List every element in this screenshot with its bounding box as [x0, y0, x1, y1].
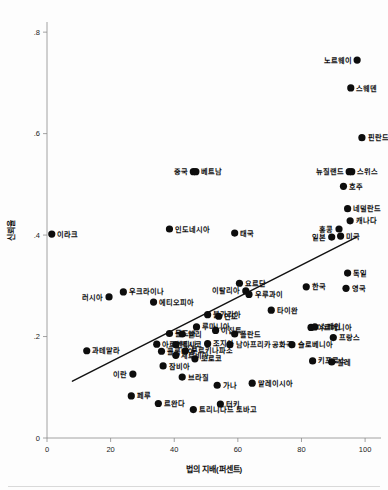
data-point-label: 칠레	[337, 358, 351, 367]
data-point-marker[interactable]	[245, 291, 252, 298]
data-point-marker[interactable]	[192, 168, 199, 175]
y-tick-label: .2	[34, 332, 40, 341]
data-point-label: 독일	[353, 269, 367, 278]
data-point-label: 인도	[224, 312, 238, 321]
x-tick-label: 60	[234, 445, 242, 454]
x-tick-label: 100	[359, 445, 372, 454]
data-point-label: 일본	[312, 233, 326, 242]
y-tick-label: .6	[34, 129, 40, 138]
data-point-label: 이탈리아	[212, 286, 240, 295]
data-point-marker[interactable]	[212, 327, 219, 334]
data-point-label: 스웨덴	[356, 84, 377, 93]
data-point-marker[interactable]	[311, 323, 318, 330]
data-point-label: 스위스	[357, 167, 378, 176]
data-point-label: 우크라이나	[129, 287, 164, 296]
data-point-label: 과테말라	[92, 346, 120, 355]
data-point-marker[interactable]	[309, 357, 316, 364]
data-point-label: 네덜란드	[353, 204, 381, 213]
data-point-label: 베트남	[201, 167, 222, 176]
data-point-label: 트리니다드 토바고	[199, 405, 257, 414]
data-point-label: 말리	[188, 330, 202, 339]
data-point-marker[interactable]	[129, 370, 136, 377]
data-point-marker[interactable]	[328, 358, 335, 365]
data-point-marker[interactable]	[215, 313, 222, 320]
data-point-marker[interactable]	[166, 225, 173, 232]
x-tick-label: 20	[106, 445, 114, 454]
data-point-marker[interactable]	[128, 392, 135, 399]
data-point-marker[interactable]	[358, 134, 365, 141]
data-point-label: 타이완	[277, 306, 298, 315]
data-point-label: 가나	[223, 381, 237, 390]
x-axis-title: 법의 지배(퍼센트)	[186, 464, 243, 474]
data-point-marker[interactable]	[344, 205, 351, 212]
data-point-marker[interactable]	[120, 288, 127, 295]
y-tick-label: .8	[34, 28, 40, 37]
data-point-marker[interactable]	[288, 341, 295, 348]
data-point-label: 중국	[174, 167, 188, 176]
data-point-marker[interactable]	[172, 352, 179, 359]
data-point-label: 우루과이	[255, 290, 283, 299]
data-point-marker[interactable]	[328, 234, 335, 241]
data-point-label: 남아프리카 공화국	[236, 340, 294, 349]
data-point-marker[interactable]	[166, 330, 173, 337]
scatter-chart-figure: 0.2.4.6.8020406080100법의 지배(퍼센트)신뢰율노르웨이스웨…	[0, 0, 388, 490]
data-point-label: 스페인	[320, 322, 341, 331]
data-point-label: 한국	[312, 282, 326, 291]
y-tick-label: 0	[36, 434, 40, 443]
data-point-marker[interactable]	[190, 406, 197, 413]
plot-area: 0.2.4.6.8020406080100법의 지배(퍼센트)신뢰율노르웨이스웨…	[0, 0, 388, 490]
data-point-marker[interactable]	[337, 232, 344, 239]
data-point-label: 에티오피아	[159, 298, 194, 307]
data-point-marker[interactable]	[347, 217, 354, 224]
data-point-marker[interactable]	[105, 293, 112, 300]
data-point-marker[interactable]	[83, 347, 90, 354]
data-point-label: 프랑스	[339, 333, 360, 342]
data-point-marker[interactable]	[340, 183, 347, 190]
data-point-marker[interactable]	[160, 362, 167, 369]
data-point-marker[interactable]	[179, 374, 186, 381]
x-tick-label: 40	[170, 445, 178, 454]
data-point-marker[interactable]	[354, 56, 361, 63]
data-point-marker[interactable]	[150, 298, 157, 305]
data-point-marker[interactable]	[204, 311, 211, 318]
data-point-label: 브라질	[188, 373, 209, 382]
data-point-label: 뉴질랜드	[316, 167, 344, 176]
data-point-marker[interactable]	[348, 168, 355, 175]
data-point-label: 말레이시아	[258, 379, 293, 388]
data-point-label: 영국	[352, 284, 366, 293]
data-point-label: 러시아	[82, 293, 103, 302]
data-point-label: 호주	[349, 182, 363, 191]
data-point-marker[interactable]	[344, 270, 351, 277]
x-tick-label: 80	[297, 445, 305, 454]
data-point-marker[interactable]	[342, 285, 349, 292]
data-point-marker[interactable]	[214, 382, 221, 389]
data-point-label: 르완다	[164, 399, 185, 408]
y-axis-title: 신뢰율	[6, 219, 16, 241]
data-point-label: 모로코	[201, 354, 222, 363]
data-point-marker[interactable]	[249, 380, 256, 387]
data-point-marker[interactable]	[191, 355, 198, 362]
data-point-label: 이라크	[57, 230, 78, 239]
data-point-marker[interactable]	[153, 341, 160, 348]
data-point-label: 노르웨이	[324, 56, 352, 65]
data-point-label: 이란	[113, 370, 127, 379]
data-point-marker[interactable]	[179, 330, 186, 337]
data-point-marker[interactable]	[303, 283, 310, 290]
data-point-label: 캐나다	[356, 216, 377, 225]
data-point-marker[interactable]	[335, 225, 342, 232]
data-point-label: 슬로베니아	[298, 340, 333, 349]
data-point-marker[interactable]	[231, 229, 238, 236]
x-tick-label: 0	[45, 445, 49, 454]
data-point-marker[interactable]	[48, 230, 55, 237]
data-point-label: 요르단	[245, 279, 266, 288]
data-point-label: 페루	[137, 391, 151, 400]
data-point-label: 인도네시아	[175, 225, 210, 234]
data-point-marker[interactable]	[155, 400, 162, 407]
data-point-marker[interactable]	[268, 307, 275, 314]
data-point-label: 미국	[346, 232, 360, 241]
data-point-marker[interactable]	[158, 348, 165, 355]
data-point-marker[interactable]	[347, 84, 354, 91]
data-point-marker[interactable]	[231, 330, 238, 337]
data-point-label: 폴란드	[240, 330, 261, 339]
data-point-label: 잠비아	[169, 362, 190, 371]
